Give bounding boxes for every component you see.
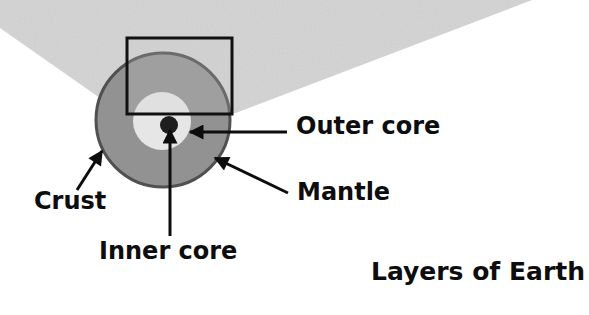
figure-title: Layers of Earth — [371, 257, 585, 286]
mantle-arrow — [215, 158, 288, 193]
label-inner-core: Inner core — [99, 237, 237, 265]
crust-arrow — [77, 151, 102, 190]
label-crust: Crust — [34, 187, 106, 215]
magnification-wedge — [0, 0, 532, 120]
label-outer-core: Outer core — [296, 112, 440, 140]
label-mantle: Mantle — [297, 178, 390, 206]
